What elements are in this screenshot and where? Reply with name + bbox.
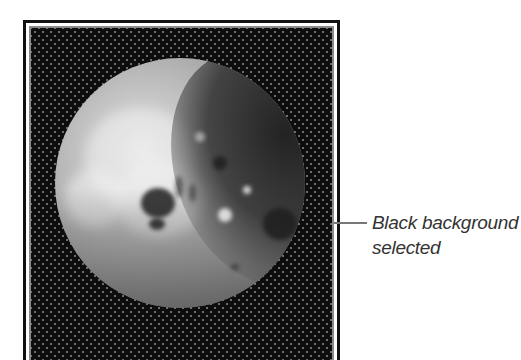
moon-crater: [149, 218, 165, 230]
moon-bright-spot: [243, 186, 251, 194]
moon-bright-spot: [218, 208, 232, 222]
moon-crater: [189, 184, 196, 202]
moon-bright-spot: [195, 132, 205, 142]
callout-line-1: Black background: [372, 210, 518, 235]
moon-crater: [141, 188, 175, 218]
moon-crater: [213, 156, 227, 170]
moon-crater: [231, 264, 239, 270]
moon-crater: [175, 176, 183, 198]
preview-background-black: [29, 26, 334, 360]
callout-leader-line: [334, 222, 367, 224]
moon-crater: [263, 208, 297, 240]
callout-line-2: selected: [372, 235, 518, 260]
preview-frame: [23, 20, 340, 360]
callout-label: Black background selected: [372, 210, 518, 260]
moon-image: [55, 58, 305, 308]
